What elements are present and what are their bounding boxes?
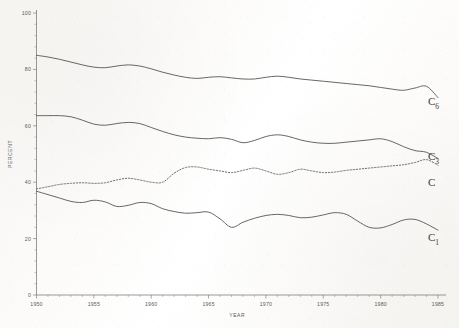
series-curves (37, 55, 439, 230)
series-label-c1: C1 (428, 231, 439, 247)
series-label-c-base: C (428, 176, 435, 188)
x-axis-title: YEAR (229, 312, 245, 318)
x-tick-label: 1980 (374, 301, 386, 307)
y-tick-label: 0 (28, 292, 31, 298)
series-label-c1-subscript: 1 (435, 238, 439, 247)
y-tick-label: 100 (22, 10, 31, 16)
x-tick-label: 1950 (30, 301, 42, 307)
y-tick-label: 80 (25, 66, 31, 72)
y-tick-label: 20 (25, 236, 31, 242)
y-axis-title-group: PERCENT (7, 140, 13, 168)
series-label-c6-subscript: 6 (435, 102, 439, 111)
x-tick-label: 1975 (317, 301, 329, 307)
series-label-c3: C3 (428, 150, 439, 166)
series-line-c3 (37, 116, 439, 159)
figure-page: 1008060402001950195519601965197019751980… (0, 0, 459, 328)
series-label-c3-subscript: 3 (435, 157, 439, 166)
y-tick-label: 40 (25, 179, 31, 185)
series-end-labels: C6C3CC1 (428, 95, 439, 247)
x-tick-label: 1960 (145, 301, 157, 307)
series-line-c1 (37, 191, 439, 230)
series-label-c: C (428, 176, 435, 188)
axes: 1008060402001950195519601965197019751980… (7, 10, 446, 318)
y-axis-title: PERCENT (7, 140, 13, 168)
series-line-c (37, 160, 439, 189)
line-chart: 1008060402001950195519601965197019751980… (0, 0, 459, 328)
series-line-c6 (37, 55, 439, 97)
x-tick-label: 1985 (432, 301, 444, 307)
y-tick-label: 60 (25, 123, 31, 129)
x-tick-label: 1970 (260, 301, 272, 307)
x-tick-label: 1965 (202, 301, 214, 307)
x-tick-label: 1955 (88, 301, 100, 307)
